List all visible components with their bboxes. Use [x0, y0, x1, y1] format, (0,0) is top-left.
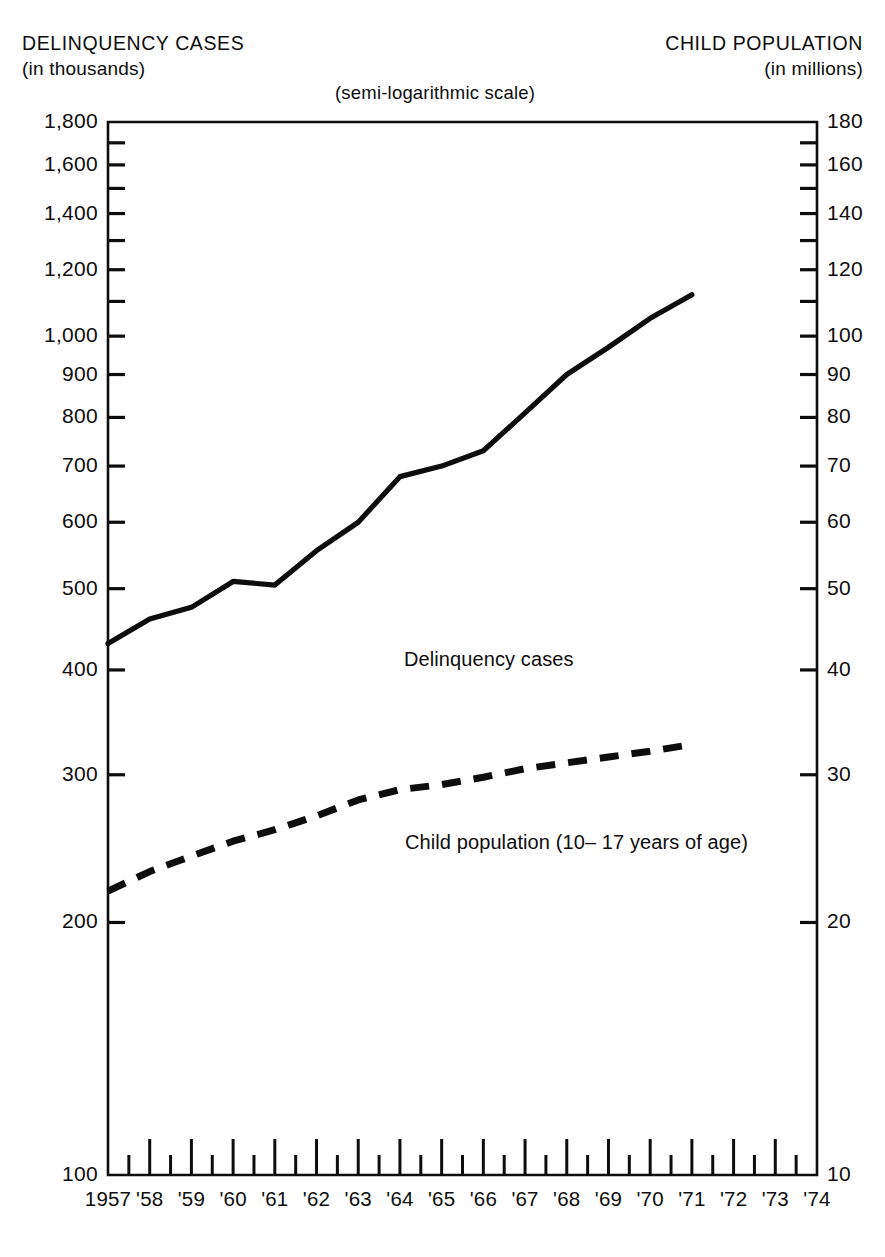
right-tick-label: 160	[827, 152, 863, 176]
right-tick-label: 40	[827, 657, 851, 681]
left-tick-label: 500	[62, 576, 98, 600]
left-tick-label: 1,400	[44, 201, 98, 225]
line-delinquency-cases	[108, 295, 692, 644]
left-tick-label: 800	[62, 404, 98, 428]
left-tick-label: 600	[62, 509, 98, 533]
left-tick-label: 100	[62, 1162, 98, 1186]
left-tick-label: 1,000	[44, 323, 98, 347]
right-tick-label: 20	[827, 909, 851, 933]
left-tick-label: 1,800	[44, 109, 98, 133]
x-tick-label: '64	[386, 1187, 413, 1211]
x-tick-label: '74	[803, 1187, 830, 1211]
right-tick-label: 80	[827, 404, 851, 428]
chart-plot-area	[0, 0, 885, 1257]
x-tick-label: '73	[762, 1187, 789, 1211]
right-tick-label: 120	[827, 257, 863, 281]
left-tick-label: 700	[62, 453, 98, 477]
left-tick-label: 1,600	[44, 152, 98, 176]
line-child-population	[108, 744, 692, 891]
series-label-child-population: Child population (10– 17 years of age)	[405, 831, 748, 854]
right-tick-label: 60	[827, 509, 851, 533]
x-axis-ticks	[129, 1139, 796, 1175]
x-tick-label: '66	[470, 1187, 497, 1211]
right-tick-label: 10	[827, 1162, 851, 1186]
left-tick-label: 300	[62, 762, 98, 786]
right-tick-label: 90	[827, 362, 851, 386]
x-tick-label: '72	[720, 1187, 747, 1211]
x-tick-label: 1957	[85, 1187, 131, 1211]
x-tick-label: '70	[637, 1187, 664, 1211]
x-tick-label: '71	[678, 1187, 705, 1211]
x-tick-label: '59	[178, 1187, 205, 1211]
left-tick-label: 900	[62, 362, 98, 386]
right-tick-label: 140	[827, 201, 863, 225]
left-tick-label: 1,200	[44, 257, 98, 281]
x-tick-label: '58	[136, 1187, 163, 1211]
x-tick-label: '65	[428, 1187, 455, 1211]
data-series-group	[108, 295, 692, 891]
series-label-delinquency-cases: Delinquency cases	[404, 648, 574, 671]
right-tick-label: 50	[827, 576, 851, 600]
x-tick-label: '62	[303, 1187, 330, 1211]
right-tick-label: 70	[827, 453, 851, 477]
left-tick-label: 400	[62, 657, 98, 681]
right-tick-label: 30	[827, 762, 851, 786]
right-tick-label: 180	[827, 109, 863, 133]
x-tick-label: '60	[219, 1187, 246, 1211]
x-tick-label: '69	[595, 1187, 622, 1211]
left-axis-ticks	[108, 143, 125, 923]
x-tick-label: '63	[345, 1187, 372, 1211]
x-tick-label: '68	[553, 1187, 580, 1211]
x-tick-label: '61	[261, 1187, 288, 1211]
right-axis-ticks	[800, 143, 817, 923]
left-tick-label: 200	[62, 909, 98, 933]
x-tick-label: '67	[511, 1187, 538, 1211]
right-tick-label: 100	[827, 323, 863, 347]
